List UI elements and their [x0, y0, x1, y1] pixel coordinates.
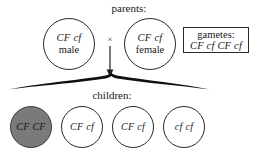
parent-female-circle: CF cf female	[124, 18, 176, 70]
parent-male-sex-label: male	[59, 44, 79, 56]
parent-female-sex-label: female	[136, 44, 165, 56]
gametes-box: gametes: CF cf CF cf	[183, 27, 249, 53]
child-2-genotype: CF cf	[70, 121, 94, 133]
parents-label: parents:	[0, 3, 258, 14]
child-circle-4: cf cf	[163, 106, 205, 148]
parent-female-genotype: CF cf	[137, 32, 162, 44]
child-circle-1: CF CF	[10, 106, 52, 148]
child-circle-2: CF cf	[61, 106, 103, 148]
child-3-genotype: CF cf	[121, 121, 145, 133]
parent-male-circle: CF cf male	[43, 18, 95, 70]
gametes-value: CF cf CF cf	[190, 40, 242, 52]
punnett-pedigree-diagram: parents: CF cf male × CF cf female gamet…	[0, 0, 258, 151]
child-4-genotype: cf cf	[175, 121, 193, 133]
cross-multiply-symbol: ×	[103, 36, 117, 44]
child-circle-3: CF cf	[112, 106, 154, 148]
gametes-title: gametes:	[197, 29, 234, 40]
children-label: children:	[0, 90, 224, 101]
child-1-genotype: CF CF	[16, 121, 46, 133]
parent-male-genotype: CF cf	[56, 32, 81, 44]
